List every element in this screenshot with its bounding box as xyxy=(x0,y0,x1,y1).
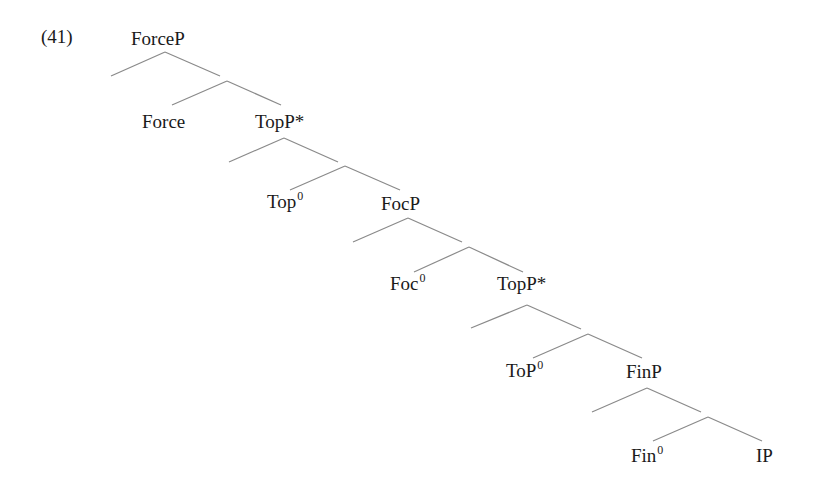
node-superscript: 0 xyxy=(657,443,663,457)
example-number: (41) xyxy=(41,27,73,46)
node-toP0: ToP0 xyxy=(506,361,543,380)
node-top0: Top0 xyxy=(267,192,303,211)
branch-top0-comp xyxy=(345,166,400,190)
branch-force-comp xyxy=(227,81,281,105)
node-label: Top xyxy=(267,191,296,212)
branch-fin0-comp xyxy=(708,417,762,441)
branch-focP-bar xyxy=(408,218,462,242)
node-focP: FocP xyxy=(381,194,420,213)
node-label: Force xyxy=(142,111,185,132)
branch-top0-head xyxy=(290,166,345,190)
branch-topP1-bar xyxy=(284,138,338,162)
node-label: ToP xyxy=(506,360,536,381)
node-superscript: 0 xyxy=(537,358,543,372)
branch-topP2-spec xyxy=(471,305,527,328)
node-finP: FinP xyxy=(626,362,662,381)
node-label: FocP xyxy=(381,193,420,214)
node-topP-lower: TopP* xyxy=(497,274,546,293)
node-label: TopP* xyxy=(497,273,546,294)
branch-foc0-head xyxy=(414,247,469,272)
node-label: Foc xyxy=(390,273,419,294)
branch-topP1-spec xyxy=(229,138,284,162)
node-topP-upper: TopP* xyxy=(255,112,304,131)
tree-branches xyxy=(0,0,817,480)
node-superscript: 0 xyxy=(420,271,426,285)
branch-toP0-comp xyxy=(588,334,642,358)
branch-topP2-bar xyxy=(527,305,581,329)
node-label: Fin xyxy=(631,445,656,466)
branch-foc0-comp xyxy=(469,247,523,272)
branch-finP-spec xyxy=(592,388,647,412)
node-label: TopP* xyxy=(255,111,304,132)
branch-focP-spec xyxy=(353,218,408,242)
node-ip: IP xyxy=(756,446,773,465)
node-fin0: Fin0 xyxy=(631,446,663,465)
node-label: FinP xyxy=(626,361,662,382)
node-forceP: ForceP xyxy=(131,29,185,48)
node-label: ForceP xyxy=(131,28,185,49)
branch-fin0-head xyxy=(653,417,708,441)
branch-forceP-bar xyxy=(165,52,220,76)
branch-finP-bar xyxy=(647,388,701,412)
branch-force-head xyxy=(172,81,227,105)
branch-toP0-head xyxy=(533,334,588,358)
node-superscript: 0 xyxy=(297,189,303,203)
syntax-tree-diagram: (41) ForceP Force TopP* Top0 FocP Foc0 T… xyxy=(0,0,817,480)
node-foc0: Foc0 xyxy=(390,274,426,293)
branch-forceP-spec xyxy=(111,52,165,76)
node-force: Force xyxy=(142,112,185,131)
node-label: IP xyxy=(756,445,773,466)
